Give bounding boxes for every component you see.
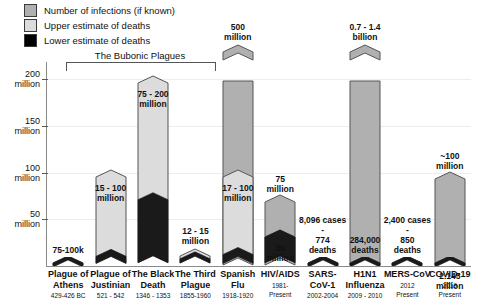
y-tick-value: 50 bbox=[30, 209, 40, 219]
y-tick-label-150: 150million bbox=[0, 116, 40, 136]
bar-value-deaths: 17 - 100million bbox=[210, 183, 266, 203]
bar-value-deaths: 15 - 100million bbox=[83, 183, 139, 203]
bar-column[interactable]: ~100million2.145million bbox=[435, 0, 465, 266]
bar-segment-lower-estimate bbox=[350, 257, 380, 266]
broken-axis-cap bbox=[222, 44, 254, 64]
bar-column[interactable]: 15 - 100million bbox=[96, 0, 126, 266]
y-tick-value: 100 bbox=[25, 163, 40, 173]
bar-segment-infections bbox=[435, 172, 465, 265]
legend-swatch-infections bbox=[24, 4, 37, 17]
bar-shape-deaths bbox=[179, 248, 211, 266]
y-tick-unit: million bbox=[0, 126, 40, 136]
bar-value-infections: ~100million bbox=[418, 151, 477, 171]
bar-shape-deaths bbox=[391, 257, 423, 266]
bar-column[interactable]: 75 - 200million bbox=[138, 0, 168, 266]
y-tick-label-100: 100million bbox=[0, 163, 40, 183]
bar-segment-lower-estimate bbox=[308, 257, 338, 266]
x-label-name: H1N1Influenza bbox=[345, 269, 384, 290]
bar-shape-deaths bbox=[52, 257, 84, 266]
bar-segment-lower-estimate bbox=[435, 257, 465, 266]
y-tick-label-200: 200million bbox=[0, 69, 40, 89]
y-tick-unit: million bbox=[0, 173, 40, 183]
bar-shape-deaths bbox=[434, 257, 466, 266]
bar-column[interactable]: 75million35million bbox=[265, 0, 295, 266]
legend-swatch-lower-estimate bbox=[24, 34, 37, 47]
x-axis-line bbox=[46, 266, 471, 267]
bar-column[interactable]: 2,400 cases-850deaths bbox=[392, 0, 422, 266]
bar-value-deaths: 2,400 cases-850deaths bbox=[379, 215, 435, 255]
bar-column[interactable]: 500million17 - 100million bbox=[223, 0, 253, 266]
x-label-name: Plague ofJustinian bbox=[90, 269, 131, 290]
x-label-name: SARS-CoV-1 bbox=[309, 269, 337, 290]
broken-axis-cap-shape bbox=[223, 45, 253, 60]
y-tick-label-50: 50million bbox=[0, 209, 40, 229]
y-tick-value: 200 bbox=[25, 69, 40, 79]
bar-shape-deaths bbox=[349, 257, 381, 266]
bar-shape-deaths bbox=[307, 257, 339, 266]
bar-value-deaths: 2.145million bbox=[422, 271, 477, 291]
x-label-name: The ThirdPlague bbox=[175, 269, 216, 290]
bar-value-deaths: 75 - 200million bbox=[125, 89, 181, 109]
bar-column[interactable]: 0.7 - 1.4billion284,000deaths bbox=[350, 0, 380, 266]
bar-segment-lower-estimate bbox=[138, 193, 168, 263]
bar-column[interactable]: 75-100k bbox=[53, 0, 83, 266]
broken-axis-cap-shape bbox=[350, 45, 380, 60]
x-label-name: HIV/AIDS bbox=[261, 269, 300, 279]
y-tick-unit: million bbox=[0, 219, 40, 229]
broken-axis-cap bbox=[349, 44, 381, 64]
bar-value-infections: 500million bbox=[206, 22, 270, 42]
x-label-name: SpanishFlu bbox=[220, 269, 255, 290]
x-label-name: Plague ofAthens bbox=[48, 269, 89, 290]
y-tick-unit: million bbox=[0, 79, 40, 89]
bar-segment-lower-estimate bbox=[392, 257, 422, 266]
bar-shape-infections bbox=[434, 171, 466, 266]
bar-segment-lower-estimate bbox=[53, 257, 83, 266]
legend-swatch-upper-estimate bbox=[24, 19, 37, 32]
y-tick-value: 150 bbox=[25, 116, 40, 126]
bar-value-deaths: 12 - 15million bbox=[167, 226, 223, 246]
pandemic-death-toll-chart: Number of infections (if known) Upper es… bbox=[0, 0, 477, 303]
x-label-name: The BlackDeath bbox=[132, 269, 175, 290]
bar-value-infections: 0.7 - 1.4billion bbox=[333, 22, 397, 42]
plot-area: 75-100k15 - 100million75 - 200million12 … bbox=[47, 0, 471, 266]
bar-value-deaths: 75-100k bbox=[40, 245, 96, 255]
